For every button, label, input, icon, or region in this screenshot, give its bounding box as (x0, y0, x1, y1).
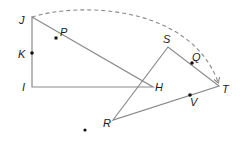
geometry-diagram: J K P I H S Q T V R (0, 0, 240, 141)
triangle-srt (113, 47, 219, 120)
point-k (30, 51, 34, 55)
label-k: K (18, 48, 26, 60)
triangle-jih (32, 17, 153, 87)
label-q: Q (192, 51, 201, 63)
label-h: H (155, 81, 163, 93)
point-p (55, 37, 58, 40)
label-t: T (222, 83, 230, 95)
label-i: I (22, 81, 25, 93)
label-r: R (103, 117, 111, 129)
stray-point (83, 128, 86, 131)
label-p: P (60, 26, 68, 38)
label-j: J (18, 14, 25, 26)
label-v: V (190, 96, 199, 108)
label-s: S (163, 33, 171, 45)
